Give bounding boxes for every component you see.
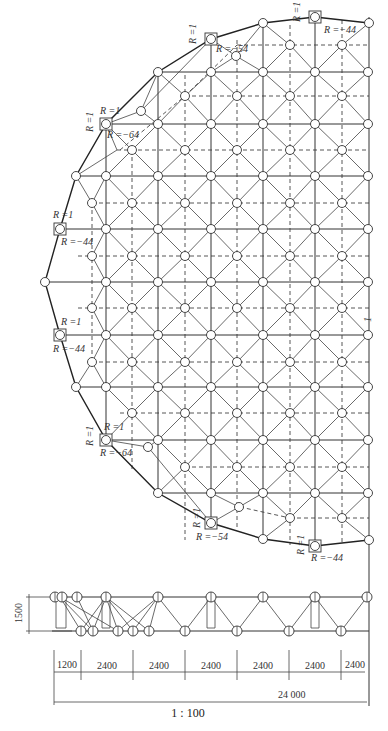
node: [181, 199, 190, 208]
node: [338, 304, 347, 313]
node: [72, 172, 81, 181]
node: [102, 331, 111, 340]
node: [311, 68, 320, 77]
node: [259, 19, 268, 28]
elevation-view: 1500 1200 2400 2400 2400 2400 2400 2400 …: [13, 592, 372, 720]
node: [207, 120, 216, 129]
node: [365, 536, 374, 545]
label-upper-left-rz: R =−64: [106, 129, 139, 140]
node: [364, 436, 373, 445]
node: [154, 225, 163, 234]
label-left-lower-rx: R =1: [60, 316, 81, 327]
node: [259, 68, 268, 77]
node: [233, 409, 242, 418]
node: [286, 199, 295, 208]
node: [181, 92, 190, 101]
node: [364, 225, 373, 234]
node: [311, 120, 320, 129]
node: [311, 172, 320, 181]
node: [88, 304, 97, 313]
node: [338, 358, 347, 367]
node: [181, 304, 190, 313]
node: [364, 383, 373, 392]
node: [338, 199, 347, 208]
node: [102, 278, 111, 287]
support-left-upper: [54, 223, 66, 235]
span-6: 2400: [305, 660, 325, 671]
support-top-right: [309, 11, 321, 23]
node: [286, 358, 295, 367]
node: [233, 92, 242, 101]
scale-label: 1 : 100: [171, 706, 204, 720]
node: [154, 172, 163, 181]
node: [207, 68, 216, 77]
node: [72, 383, 81, 392]
node: [181, 252, 190, 261]
node: [364, 120, 373, 129]
node: [259, 172, 268, 181]
node: [128, 146, 137, 155]
node: [207, 331, 216, 340]
node: [128, 252, 137, 261]
node: [364, 278, 373, 287]
node: [88, 358, 97, 367]
node: [259, 278, 268, 287]
node: [207, 383, 216, 392]
node: [144, 443, 153, 452]
node: [286, 146, 295, 155]
node: [311, 489, 320, 498]
node: [181, 409, 190, 418]
node: [364, 68, 373, 77]
node: [181, 146, 190, 155]
height-label: 1500: [13, 603, 24, 623]
node: [338, 41, 347, 50]
label-bottom-mid-r1: R =1: [191, 508, 202, 529]
node: [154, 120, 163, 129]
label-bottom-mid-rz: R =−54: [195, 531, 228, 542]
node: [311, 436, 320, 445]
span-3: 2400: [149, 660, 169, 671]
node: [286, 252, 295, 261]
label-upper-left-rx: R =1: [99, 105, 120, 116]
node: [128, 409, 137, 418]
node: [311, 383, 320, 392]
node: [128, 304, 137, 313]
node: [154, 436, 163, 445]
node: [102, 172, 111, 181]
node: [128, 358, 137, 367]
label-left-upper-rz: R =−44: [60, 236, 93, 247]
node: [259, 331, 268, 340]
node: [259, 225, 268, 234]
node: [154, 383, 163, 392]
node: [181, 463, 190, 472]
elevation-nodes: [50, 592, 372, 636]
node: [88, 199, 97, 208]
node: [207, 172, 216, 181]
node: [154, 489, 163, 498]
node: [181, 358, 190, 367]
node: [338, 92, 347, 101]
node: [207, 436, 216, 445]
node: [233, 252, 242, 261]
support-bottom-mid: [205, 517, 217, 529]
node: [235, 503, 244, 512]
node: [233, 199, 242, 208]
node: [233, 146, 242, 155]
node: [286, 514, 295, 523]
label-left-upper-rx: R =1: [52, 209, 73, 220]
node: [137, 107, 146, 116]
node: [207, 278, 216, 287]
node: [364, 331, 373, 340]
support-left-lower: [54, 329, 66, 341]
span-2: 2400: [97, 660, 117, 671]
node: [102, 225, 111, 234]
node: [259, 535, 268, 544]
label-top-right-rz: R =−44: [323, 24, 356, 35]
node: [154, 331, 163, 340]
node: [88, 252, 97, 261]
node: [259, 436, 268, 445]
node: [338, 252, 347, 261]
centerline-mark: 1: [362, 317, 373, 322]
label-top-mid-r1: R =1: [187, 24, 198, 45]
support-lower-left: [100, 434, 112, 446]
